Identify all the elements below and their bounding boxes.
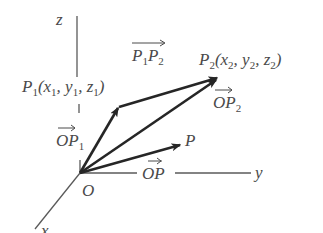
p1p2-a: P [132,46,142,65]
vector-op-label: OP [142,157,165,182]
p2-sep2: , [255,50,264,69]
vector-diagram [0,0,323,233]
op2-sub: 2 [236,102,242,114]
vector-arrow-icon [56,124,84,132]
point-p1-label: P1(x1, y1, z1) [22,78,104,98]
y-label-text: y [255,163,263,182]
p1-sep1: , [57,77,66,96]
vector-op2-label: OP2 [213,86,241,114]
vector-arrow-icon [132,39,164,47]
p2-y: y [242,50,250,69]
p2-name: P [199,50,209,69]
origin-label-text: O [82,181,94,200]
p2-sep1: , [234,50,243,69]
p1-y: y [65,77,73,96]
p1-name: P [22,77,32,96]
x-label-text: x [41,221,49,233]
y-axis-label: y [255,164,263,181]
z-axis-label: z [56,11,63,28]
p2-x: x [221,50,229,69]
p1p2-b-sub: 2 [158,55,164,67]
op-main: OP [142,164,165,183]
op1-main: OP [56,131,79,150]
op2-main: OP [213,93,236,112]
p1-close-paren: ) [99,77,105,96]
p1p2-b: P [148,46,158,65]
point-p-label: P [185,132,195,149]
p2-close-paren: ) [276,50,282,69]
op1-sub: 1 [79,140,85,152]
vector-p1p2-label: P1P2 [132,39,164,67]
p-name: P [185,131,195,150]
vector-arrow-icon [213,86,241,94]
p1-x: x [44,77,52,96]
vector-arrow-icon [142,157,165,165]
x-axis-label: x [41,222,49,233]
p1-sep2: , [78,77,87,96]
z-label-text: z [56,10,63,29]
origin-label: O [82,182,94,199]
vector-op1-label: OP1 [56,124,84,152]
point-p2-label: P2(x2, y2, z2) [199,51,281,71]
vector-p1p2 [119,78,217,107]
